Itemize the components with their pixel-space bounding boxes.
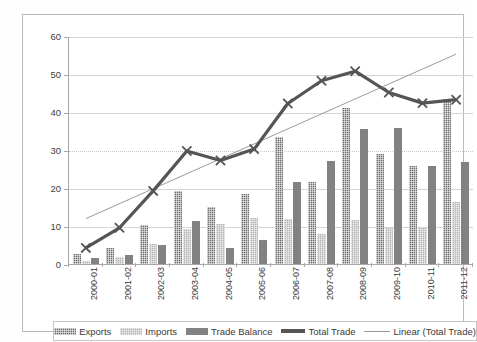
x-axis-tick-label: 2009-10 [392,267,402,300]
legend-label: Imports [145,326,177,337]
x-axis-tick [102,263,103,267]
chart-plot-frame: 2000-012001-022002-032003-042004-052005-… [22,14,464,332]
x-axis-tick [135,263,136,267]
y-axis-tick [64,265,68,266]
x-axis-tick-label: 2000-01 [89,267,99,300]
x-axis-tick-label: 2004-05 [224,267,234,300]
y-axis-tick [64,75,68,76]
x-axis-tick-label: 2006-07 [291,267,301,300]
legend-label: Trade Balance [211,326,272,337]
legend-swatch-linear-icon [364,331,390,332]
y-axis-tick [64,113,68,114]
y-axis-tick [64,227,68,228]
x-axis-tick [68,263,69,267]
legend-item-linear[interactable]: Linear (Total Trade) [364,326,475,337]
x-axis-tick-label: 2008-09 [358,267,368,300]
legend-swatch-total-icon [281,329,305,333]
y-axis-tick [64,151,68,152]
y-axis-tick-label: 0 [31,260,61,270]
x-axis-tick-label: 2003-04 [190,267,200,300]
line-series-layer [69,37,473,265]
legend-label: Linear (Total Trade) [393,326,475,337]
trendline-linear-total-trade [86,54,456,219]
x-axis-tick-label: 2010-11 [426,267,436,299]
x-axis-tick [337,263,338,267]
line-total-trade [86,71,456,248]
y-axis-tick-label: 60 [31,32,61,42]
legend-item-imports[interactable]: Imports [120,326,177,337]
chart-legend: ExportsImportsTrade BalanceTotal TradeLi… [53,321,477,341]
x-axis-tick [169,263,170,267]
legend-swatch-imports-icon [120,328,142,335]
legend-item-balance[interactable]: Trade Balance [186,326,272,337]
x-axis-tick [438,263,439,267]
marker-total-trade [81,243,90,252]
marker-total-trade [149,186,158,195]
legend-swatch-exports-icon [54,328,76,335]
x-axis-tick [371,263,372,267]
legend-label: Total Trade [308,326,355,337]
marker-total-trade [283,99,292,108]
marker-total-trade [115,223,124,232]
legend-item-exports[interactable]: Exports [54,326,111,337]
x-axis-tick-label: 2002-03 [156,267,166,300]
x-axis-tick [405,263,406,267]
x-axis-tick [270,263,271,267]
y-axis-tick-label: 30 [31,146,61,156]
x-axis-tick [472,263,473,267]
x-axis-tick [236,263,237,267]
y-axis-tick-label: 40 [31,108,61,118]
plot-area [68,37,472,265]
x-axis-tick-label: 2011-12 [459,267,469,299]
y-axis-tick-label: 10 [31,222,61,232]
x-axis-tick-label: 2001-02 [123,267,133,300]
legend-item-total[interactable]: Total Trade [281,326,355,337]
x-axis-tick [203,263,204,267]
x-axis-labels: 2000-012001-022002-032003-042004-052005-… [68,267,472,319]
y-axis-tick [64,189,68,190]
x-axis-tick [304,263,305,267]
y-axis-tick-label: 50 [31,70,61,80]
y-axis-tick-label: 20 [31,184,61,194]
x-axis-tick-label: 2005-06 [257,267,267,300]
legend-label: Exports [79,326,111,337]
legend-swatch-balance-icon [186,328,208,335]
y-axis-tick [64,37,68,38]
x-axis-tick-label: 2007-08 [325,267,335,300]
